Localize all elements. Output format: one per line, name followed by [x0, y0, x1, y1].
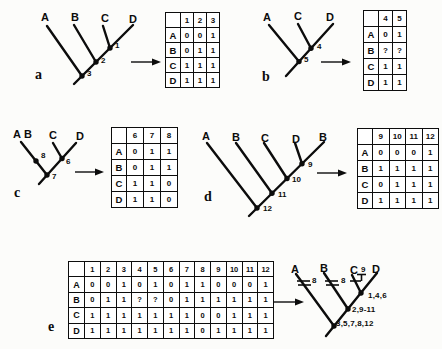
node-dot-2: [93, 59, 98, 64]
matrix-col-header: 9: [211, 262, 227, 277]
matrix-value-cell: 1: [406, 177, 423, 193]
panel-letter-c: c: [14, 186, 20, 200]
tree-e-node-label-2911: 2,9-11: [352, 306, 375, 314]
matrix-value-cell: 1: [181, 58, 194, 73]
matrix-value-cell: 0: [379, 27, 393, 43]
matrix-col-header: 2: [194, 13, 207, 28]
tree-d-tip-C: C: [261, 133, 269, 144]
matrix-value-cell: 1: [163, 323, 179, 338]
matrix-row-label: A: [69, 277, 85, 292]
matrix-row: D111111101111: [69, 323, 274, 338]
tree-d-node-label-9: 9: [308, 161, 312, 169]
matrix-value-cell: 1: [258, 292, 274, 307]
matrix-value-cell: 1: [116, 308, 132, 323]
tree-e-tip-B: B: [320, 263, 328, 274]
matrix-row-label: C: [364, 59, 379, 75]
matrix-value-cell: 0: [194, 28, 207, 43]
matrix-value-cell: 1: [393, 75, 407, 91]
matrix-value-cell: ?: [379, 43, 393, 59]
matrix-value-cell: 1: [100, 323, 116, 338]
tree-e-mark-label-B: 8: [341, 277, 345, 285]
matrix-col-header: 8: [195, 262, 211, 277]
matrix-col-header: 11: [242, 262, 258, 277]
matrix-value-cell: 1: [100, 308, 116, 323]
matrix-header-row: 9101112: [358, 129, 439, 145]
node-dot-10: [284, 176, 289, 181]
matrix-row: D11: [364, 75, 407, 91]
matrix-c: 678A011B011C110D110: [111, 127, 178, 208]
matrix-row: D110: [112, 192, 178, 208]
tree-d-node-label-11: 11: [278, 191, 286, 199]
character-matrix-table: 123A001B011C111D111: [165, 12, 220, 88]
matrix-value-cell: 0: [161, 192, 178, 208]
matrix-row-label: C: [69, 308, 85, 323]
matrix-value-cell: 0: [85, 292, 101, 307]
matrix-col-header: 6: [163, 262, 179, 277]
matrix-col-header: 11: [406, 129, 423, 145]
matrix-row-label: B: [358, 161, 373, 177]
matrix-row: B??: [364, 43, 407, 59]
matrix-value-cell: 1: [116, 323, 132, 338]
arrow-right-icon-a: [131, 58, 161, 65]
tree-e-mark-label-A: 8: [312, 277, 316, 285]
matrix-value-cell: 1: [116, 277, 132, 292]
matrix-row-label: A: [112, 144, 127, 160]
tree-d-branch-A: [207, 143, 257, 208]
matrix-row-label: B: [364, 43, 379, 59]
matrix-b: 45A01B??C11D11: [363, 10, 407, 91]
matrix-row: A001: [166, 28, 220, 43]
tree-a-tip-D: D: [129, 14, 137, 25]
matrix-value-cell: 1: [148, 308, 164, 323]
panel-letter-b: b: [262, 70, 270, 84]
matrix-col-header: 7: [144, 128, 161, 144]
matrix-value-cell: 1: [242, 292, 258, 307]
matrix-header-row: 45: [364, 11, 407, 27]
matrix-row-label: D: [112, 192, 127, 208]
matrix-header-row: 123456789101112: [69, 262, 274, 277]
matrix-value-cell: 1: [258, 308, 274, 323]
character-matrix-table: 45A01B??C11D11: [363, 10, 407, 91]
tree-c-tip-C: C: [49, 130, 57, 141]
matrix-value-cell: 1: [379, 59, 393, 75]
matrix-value-cell: 0: [226, 277, 242, 292]
matrix-row-label: B: [112, 160, 127, 176]
matrix-col-header: 1: [181, 13, 194, 28]
matrix-value-cell: 1: [373, 193, 390, 209]
matrix-value-cell: 0: [373, 145, 390, 161]
matrix-col-header: 10: [389, 129, 406, 145]
matrix-col-header: 10: [226, 262, 242, 277]
matrix-value-cell: 1: [422, 177, 439, 193]
tree-a-branch-C: [103, 26, 110, 48]
matrix-value-cell: 0: [127, 160, 144, 176]
tree-d-branch-C: [264, 143, 287, 179]
tree-c-tip-A: A: [13, 129, 21, 140]
matrix-value-cell: 1: [406, 161, 423, 177]
tree-b-tip-C: C: [294, 11, 302, 22]
tree-a-node-label-3: 3: [87, 70, 91, 78]
tree-a-node-label-2: 2: [101, 57, 105, 65]
matrix-value-cell: 1: [179, 292, 195, 307]
node-dot-9: [299, 161, 304, 166]
matrix-value-cell: 1: [161, 160, 178, 176]
matrix-value-cell: 1: [207, 43, 220, 58]
node-dot-11: [269, 191, 274, 196]
matrix-col-header: 5: [148, 262, 164, 277]
node-dot-8: [33, 158, 38, 163]
matrix-row-label: C: [358, 177, 373, 193]
matrix-value-cell: 1: [85, 323, 101, 338]
node-dot-5: [296, 59, 301, 64]
tree-e-tip-D: D: [372, 264, 380, 275]
matrix-value-cell: 1: [258, 323, 274, 338]
tree-d-tip-A: A: [202, 131, 210, 142]
matrix-row-label: B: [69, 292, 85, 307]
arrow-head: [342, 58, 351, 65]
arrow-head: [295, 298, 304, 305]
matrix-value-cell: ?: [148, 292, 164, 307]
matrix-e: 123456789101112A001010110001B011??011111…: [68, 261, 274, 339]
tree-e-tip-C: C: [350, 265, 358, 276]
tree-c-node-label-8: 8: [41, 152, 45, 160]
matrix-value-cell: 1: [179, 323, 195, 338]
arrow-right-icon-c: [75, 168, 104, 175]
matrix-value-cell: 1: [148, 323, 164, 338]
matrix-value-cell: 1: [393, 27, 407, 43]
